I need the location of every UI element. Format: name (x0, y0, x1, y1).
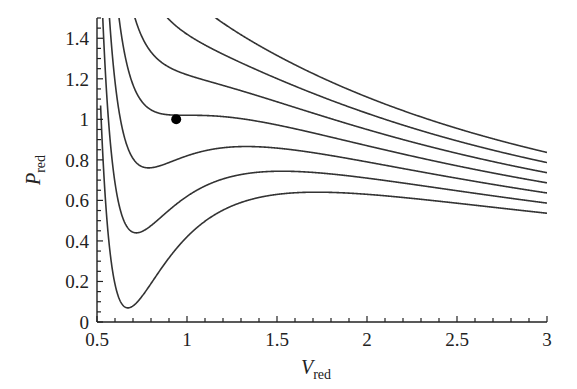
y-tick-label: 1.2 (65, 69, 89, 90)
van-der-waals-isotherm-chart: 0.511.522.53 00.20.40.60.811.21.4 Vred P… (0, 0, 577, 389)
y-tick-label: 1.4 (65, 28, 89, 49)
y-tick-label: 0.2 (65, 271, 89, 292)
isotherm-curves (101, 0, 547, 308)
x-tick-label: 3 (542, 329, 552, 350)
x-tick-label: 2 (362, 329, 372, 350)
isotherm-curve (123, 0, 547, 173)
isotherm-curve (138, 0, 547, 163)
x-axis-label: Vred (301, 356, 331, 382)
x-axis-ticks: 0.511.522.53 (85, 316, 552, 350)
y-axis-label: Pred (22, 155, 48, 186)
y-tick-label: 1 (80, 109, 90, 130)
isotherm-curve (106, 0, 547, 193)
x-tick-label: 2.5 (445, 329, 469, 350)
y-tick-label: 0.4 (65, 231, 89, 252)
critical-point-marker (171, 114, 181, 124)
isotherm-curve (160, 0, 547, 152)
x-tick-label: 1 (182, 329, 192, 350)
x-tick-label: 1.5 (265, 329, 289, 350)
y-tick-label: 0 (80, 312, 90, 333)
y-tick-label: 0.8 (65, 150, 89, 171)
y-tick-label: 0.6 (65, 190, 89, 211)
annotations (171, 114, 181, 124)
